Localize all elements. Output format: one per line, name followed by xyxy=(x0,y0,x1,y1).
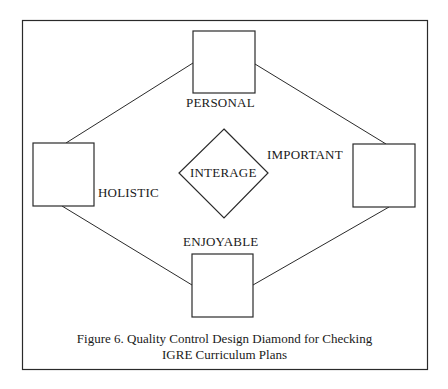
edge-holistic-enjoyable xyxy=(62,206,192,285)
edge-personal-important xyxy=(255,64,386,144)
box-important xyxy=(353,144,415,207)
box-personal xyxy=(193,31,255,93)
figure-caption-line-1: Figure 6. Quality Control Design Diamond… xyxy=(22,331,427,346)
edge-personal-holistic xyxy=(66,63,193,143)
label-personal: PERSONAL xyxy=(186,96,255,110)
figure-caption-line-2: IGRE Curriculum Plans xyxy=(22,347,427,362)
label-important: IMPORTANT xyxy=(267,148,343,162)
label-holistic: HOLISTIC xyxy=(98,186,159,200)
edge-important-enjoyable xyxy=(253,207,389,285)
label-interage: INTERAGE xyxy=(190,166,257,180)
label-enjoyable: ENJOYABLE xyxy=(183,235,258,249)
box-enjoyable xyxy=(192,254,253,317)
box-holistic xyxy=(33,143,94,206)
